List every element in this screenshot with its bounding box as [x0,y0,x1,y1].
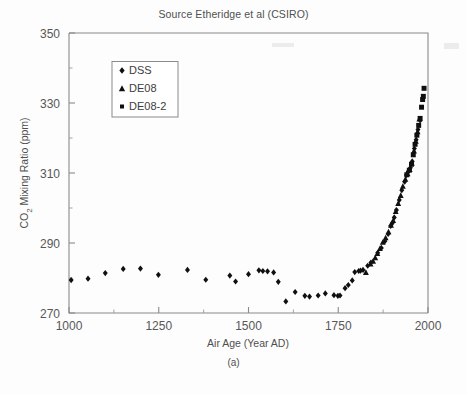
data-point [203,277,208,283]
data-point [156,272,161,278]
svg-text:CO2 Mixing Ratio (ppm): CO2 Mixing Ratio (ppm) [18,117,34,228]
data-point [316,292,321,298]
legend-label: DSS [129,64,152,76]
data-point [260,268,265,274]
data-points-layer [69,86,427,305]
x-tick-label: 1000 [56,319,83,333]
data-point [307,293,312,299]
data-point [276,279,281,285]
data-point [352,269,357,275]
x-tick-label: 1250 [145,319,172,333]
y-tick-label: 350 [40,27,60,41]
data-point [185,267,190,273]
data-point [422,86,427,91]
legend-label: DE08-2 [129,100,166,112]
data-point [265,268,270,274]
data-point [233,278,238,284]
y-tick-label: 290 [40,237,60,251]
data-point [86,276,91,282]
data-point [409,162,414,167]
data-point [421,94,426,99]
data-point [413,142,418,147]
data-point [283,298,288,304]
y-axis-label-suffix: Mixing Ratio (ppm) [18,117,30,208]
series-de08 [363,116,422,275]
x-axis-ticks [69,307,428,313]
data-point [271,269,276,275]
scatter-plot: 270290310330350 10001250150017502000 Air… [0,0,467,394]
series-dss [69,117,423,304]
figure-caption: (a) [0,357,467,368]
legend[interactable]: DSSDE08DE08-2 [112,62,178,118]
x-axis-label: Air Age (Year AD) [207,337,289,349]
data-point [386,229,392,235]
data-point [103,270,108,276]
data-point [414,133,419,138]
data-point [293,289,298,295]
figure-container: Source Etheridge et al (CSIRO) 270290310… [0,0,467,394]
x-axis-tick-labels: 10001250150017502000 [56,319,442,333]
y-axis-ticks [69,33,75,313]
data-point [350,277,355,283]
x-tick-label: 2000 [415,319,442,333]
data-point [411,152,416,157]
y-axis-label: CO2 Mixing Ratio (ppm) [18,117,34,228]
data-point [138,265,143,271]
x-tick-label: 1750 [325,319,352,333]
data-point [398,192,404,198]
data-point [227,272,232,278]
data-point [419,105,424,110]
y-axis-label-prefix: CO [18,213,30,229]
data-point [331,292,336,298]
legend-marker-square-icon [120,105,124,109]
data-point [323,290,328,296]
data-point [246,271,251,277]
data-point [302,293,307,299]
data-point [256,267,261,273]
x-tick-label: 1500 [235,319,262,333]
legend-label: DE08 [129,82,157,94]
data-point [416,123,421,128]
data-point [404,172,409,177]
data-point [407,168,412,173]
y-tick-label: 330 [40,97,60,111]
y-tick-label: 310 [40,167,60,181]
data-point [418,116,423,121]
data-point [121,266,126,272]
y-axis-tick-labels: 270290310330350 [40,27,60,321]
series-de08-2 [404,86,426,177]
